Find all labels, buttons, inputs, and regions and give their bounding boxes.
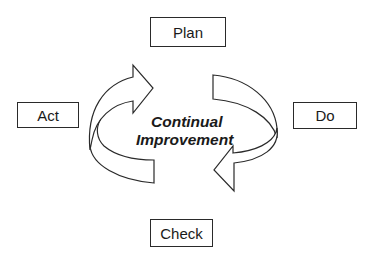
stage-box-check: Check (150, 219, 213, 247)
stage-label-check: Check (160, 225, 203, 242)
stage-label-do: Do (315, 107, 334, 124)
stage-box-do: Do (293, 102, 357, 129)
pdca-diagram: Plan Do Check Act Continual Improvement (0, 0, 371, 262)
stage-box-act: Act (17, 102, 79, 128)
center-label-line2: Improvement (136, 131, 232, 149)
stage-label-plan: Plan (173, 24, 203, 41)
left-curved-arrow-icon (89, 65, 154, 183)
center-label-line1: Continual (151, 113, 219, 131)
stage-box-plan: Plan (150, 17, 226, 47)
stage-label-act: Act (37, 107, 59, 124)
